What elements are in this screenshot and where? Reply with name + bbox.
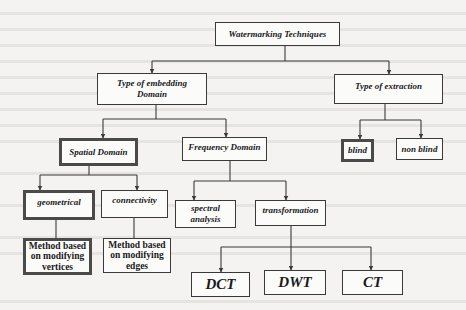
node-type-of-embedding-domain: Type of embedding Domain	[97, 73, 207, 105]
node-label: blind	[348, 145, 367, 156]
node-spectral-analysis: spectral analysis	[175, 200, 236, 228]
node-label: transformation	[262, 205, 318, 216]
node-geometrical: geometrical	[23, 190, 95, 220]
node-label: Method based on modifying edges	[106, 240, 168, 272]
node-blind: blind	[341, 139, 374, 162]
node-label: Watermarking Techniques	[229, 29, 327, 40]
node-label: CT	[363, 277, 382, 288]
node-label: connectivity	[112, 195, 157, 206]
node-watermarking-techniques: Watermarking Techniques	[215, 22, 340, 46]
node-method-modifying-edges: Method based on modifying edges	[103, 238, 171, 273]
node-ct: CT	[342, 270, 403, 295]
node-label: Type of extraction	[355, 81, 422, 92]
node-frequency-domain: Frequency Domain	[182, 137, 267, 161]
node-dwt: DWT	[264, 270, 326, 295]
node-method-modifying-vertices: Method based on modifying vertices	[23, 238, 92, 275]
node-dct: DCT	[191, 272, 250, 297]
node-label: Spatial Domain	[69, 147, 127, 158]
node-transformation: transformation	[255, 200, 326, 226]
node-label: Method based on modifying vertices	[27, 241, 89, 273]
node-label: DWT	[278, 277, 311, 288]
node-label: non blind	[402, 144, 438, 155]
node-label: DCT	[206, 279, 236, 290]
node-spatial-domain: Spatial Domain	[59, 138, 138, 166]
node-connectivity: connectivity	[101, 190, 168, 218]
node-label: Type of embedding Domain	[112, 78, 192, 100]
node-type-of-extraction: Type of extraction	[334, 74, 443, 104]
node-label: geometrical	[37, 197, 81, 208]
node-non-blind: non blind	[396, 138, 443, 160]
node-label: spectral analysis	[186, 203, 226, 225]
node-label: Frequency Domain	[188, 142, 260, 153]
